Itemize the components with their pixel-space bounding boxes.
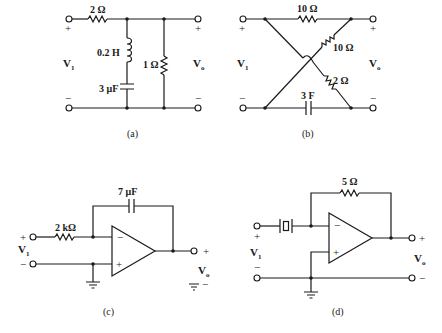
label-capacitor: 3 μF <box>99 83 118 94</box>
caption-a: (a) <box>127 128 138 140</box>
ground-icon <box>86 282 100 288</box>
resistor-10ohm-top <box>298 16 317 22</box>
minus-sign: − <box>254 261 260 273</box>
junction-dot <box>171 249 175 253</box>
input-terminal-minus <box>66 105 72 111</box>
minus-sign: − <box>20 258 26 270</box>
label-10ohm-top: 10 Ω <box>297 3 318 14</box>
junction-dot <box>349 17 353 21</box>
output-terminal-plus <box>409 235 415 241</box>
caption-d: (d) <box>332 306 344 318</box>
junction-dot <box>162 17 166 21</box>
opamp-noninverting-sign: + <box>333 246 339 258</box>
output-voltage-label: Vo <box>198 264 210 279</box>
junction-dot <box>389 236 393 240</box>
capacitor-7uF <box>129 199 134 213</box>
plus-sign: + <box>254 230 260 242</box>
circuit-b: 10 Ω 10 Ω 2 Ω 3 F + − + − V1 Vo (b) <box>237 3 381 140</box>
resistor-2kohm <box>55 234 74 240</box>
junction-dot <box>91 262 95 266</box>
junction-dot <box>162 106 166 110</box>
input-terminal-minus <box>240 105 246 111</box>
wire <box>134 206 173 251</box>
output-voltage-label: Vo <box>193 57 205 72</box>
input-terminal-minus <box>30 261 36 267</box>
junction-dot <box>91 235 95 239</box>
opamp-inverting-sign: − <box>117 231 123 243</box>
caption-b: (b) <box>302 128 314 140</box>
plus-sign: + <box>195 22 201 34</box>
capacitor-3uF <box>120 84 134 89</box>
label-2ohm: 2 Ω <box>333 75 349 86</box>
label-10ohm-diagonal: 10 Ω <box>333 42 354 53</box>
output-voltage-label: Vo <box>414 252 426 267</box>
plus-sign: + <box>203 245 209 257</box>
input-voltage-label: V1 <box>63 57 75 72</box>
label-2ohm: 2 Ω <box>90 4 106 15</box>
junction-dot <box>125 17 129 21</box>
ground-icon <box>189 284 199 290</box>
plus-sign: + <box>419 232 425 244</box>
wire <box>334 19 351 35</box>
junction-dot <box>309 276 313 280</box>
input-terminal-plus <box>254 223 260 229</box>
label-7uF: 7 μF <box>118 186 137 197</box>
junction-dot <box>309 224 313 228</box>
label-2kohm: 2 kΩ <box>55 222 76 233</box>
plus-sign: + <box>370 22 376 34</box>
circuit-c: 7 μF 2 kΩ − + + − + − V1 Vo (c) <box>18 186 210 318</box>
wire <box>336 89 351 108</box>
plus-sign: + <box>20 231 26 243</box>
label-inductor: 0.2 H <box>97 47 120 58</box>
output-terminal-plus <box>191 248 197 254</box>
plus-sign: + <box>239 22 245 34</box>
input-voltage-label: V1 <box>250 246 262 261</box>
input-voltage-label: V1 <box>18 243 30 258</box>
junction-dot <box>125 106 129 110</box>
input-terminal-plus <box>30 234 36 240</box>
label-5ohm: 5 Ω <box>342 176 358 187</box>
output-voltage-label: Vo <box>369 57 381 72</box>
crystal-body <box>284 222 289 231</box>
output-terminal-minus <box>195 105 201 111</box>
caption-c: (c) <box>103 306 114 318</box>
junction-dot <box>349 106 353 110</box>
capacitor-3F <box>306 101 311 115</box>
plus-sign: + <box>65 22 71 34</box>
ground-icon <box>304 292 318 298</box>
opamp-inverting-sign: − <box>334 219 340 231</box>
minus-sign: − <box>239 92 245 104</box>
junction-dot <box>263 17 267 21</box>
minus-sign: − <box>419 272 425 284</box>
inductor <box>127 38 132 62</box>
junction-dot <box>263 106 267 110</box>
minus-sign: − <box>195 92 201 104</box>
label-3F: 3 F <box>301 90 315 101</box>
resistor-2ohm <box>88 16 107 22</box>
output-terminal-minus <box>370 105 376 111</box>
circuit-figure: 2 Ω 0.2 H 3 μF 1 Ω + − + − V1 Vo (a) <box>0 0 442 333</box>
output-terminal-minus <box>409 275 415 281</box>
minus-sign: − <box>202 278 208 290</box>
wire <box>265 19 303 58</box>
minus-sign: − <box>65 92 71 104</box>
circuit-d: 5 Ω − + + − + − V1 Vo (d) <box>250 176 426 318</box>
wire <box>313 62 324 76</box>
label-1ohm: 1 Ω <box>143 59 159 70</box>
opamp-noninverting-sign: + <box>116 258 122 270</box>
resistor-5ohm <box>340 190 359 196</box>
minus-sign: − <box>370 92 376 104</box>
resistor-1ohm <box>161 56 167 75</box>
wire <box>359 193 391 238</box>
input-terminal-minus <box>254 275 260 281</box>
input-voltage-label: V1 <box>237 57 249 72</box>
wire <box>311 252 329 278</box>
circuit-a: 2 Ω 0.2 H 3 μF 1 Ω + − + − V1 Vo (a) <box>63 4 205 140</box>
